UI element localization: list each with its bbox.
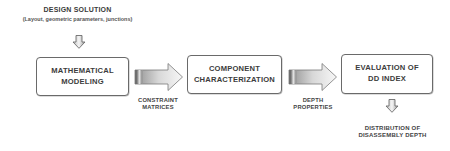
constraint-matrices-label: CONSTRAINT MATRICES	[128, 97, 188, 110]
right-arrow-icon	[134, 62, 184, 92]
output-line1: DISTRIBUTION OF	[345, 125, 440, 132]
evaluation-dd-index-line2: DD INDEX	[368, 74, 406, 85]
edge-label-line1: CONSTRAINT	[128, 97, 188, 104]
evaluation-dd-index-line1: EVALUATION OF	[355, 63, 419, 74]
disassembly-depth-output: DISTRIBUTION OF DISASSEMBLY DEPTH	[345, 125, 440, 139]
down-arrow-icon	[385, 99, 399, 113]
component-characterization-line2: CHARACTERIZATION	[194, 75, 275, 86]
edge-label-line1: DEPTH	[283, 97, 343, 104]
mathematical-modeling-box: MATHEMATICAL MODELING	[36, 57, 129, 96]
output-line2: DISASSEMBLY DEPTH	[345, 132, 440, 139]
down-arrow-icon	[72, 35, 86, 49]
design-solution-subtitle: (Layout, geometric parameters, junctions…	[0, 16, 155, 22]
mathematical-modeling-line1: MATHEMATICAL	[51, 66, 113, 77]
design-solution-title: DESIGN SOLUTION	[0, 6, 155, 14]
right-arrow-icon	[288, 62, 338, 92]
edge-label-line2: PROPERTIES	[283, 104, 343, 111]
component-characterization-box: COMPONENT CHARACTERIZATION	[187, 55, 282, 94]
evaluation-dd-index-box: EVALUATION OF DD INDEX	[341, 54, 433, 94]
depth-properties-label: DEPTH PROPERTIES	[283, 97, 343, 110]
mathematical-modeling-line2: MODELING	[61, 77, 104, 88]
component-characterization-line1: COMPONENT	[209, 64, 260, 75]
edge-label-line2: MATRICES	[128, 104, 188, 111]
